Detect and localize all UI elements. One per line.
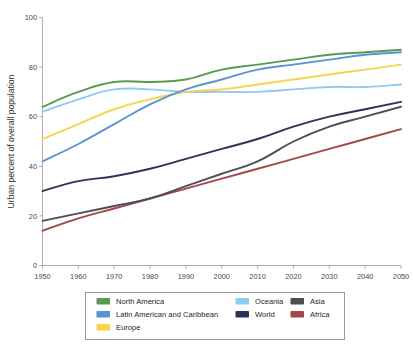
legend-swatch-oceania [236, 298, 250, 305]
series-line-north-america [43, 50, 402, 107]
x-tick-label: 1950 [34, 272, 50, 281]
legend-swatch-north-america [97, 298, 111, 305]
legend-label-latin-american-and-caribbean: Latin American and Caribbean [116, 310, 218, 319]
x-tick-label: 2010 [249, 272, 265, 281]
legend-swatch-asia [291, 298, 305, 305]
y-tick-label: 20 [29, 212, 37, 221]
x-tick-label: 2030 [321, 272, 337, 281]
legend-label-europe: Europe [116, 323, 141, 332]
urban-population-line-chart: 0204060801001950196019701980199020002010… [0, 0, 413, 353]
y-tick-label: 60 [29, 112, 37, 121]
x-tick-label: 1970 [106, 272, 122, 281]
legend-item[interactable]: World [236, 310, 275, 319]
legend-swatch-latin-american-and-caribbean [97, 311, 111, 318]
y-tick-label: 0 [33, 261, 37, 270]
series-line-world [43, 102, 402, 191]
legend-swatch-europe [97, 324, 111, 331]
legend-item[interactable]: Europe [97, 323, 141, 332]
series-line-latin-american-and-caribbean [43, 52, 402, 161]
legend-swatch-africa [291, 311, 305, 318]
legend-label-oceania: Oceania [255, 297, 284, 306]
x-tick-label: 1990 [178, 272, 194, 281]
legend-label-world: World [255, 310, 275, 319]
legend: North AmericaLatin American and Caribbea… [86, 293, 345, 340]
series-line-africa [43, 129, 402, 231]
y-tick-label: 80 [29, 63, 37, 72]
x-tick-label: 1960 [70, 272, 86, 281]
legend-item[interactable]: Africa [291, 310, 331, 319]
legend-label-africa: Africa [310, 310, 330, 319]
legend-swatch-world [236, 311, 250, 318]
x-tick-label: 2020 [285, 272, 301, 281]
series-group [43, 50, 402, 231]
y-axis-title: Urban percent of overall population [6, 74, 16, 208]
legend-item[interactable]: North America [97, 297, 165, 306]
y-tick-label: 100 [25, 13, 37, 22]
x-tick-label: 2050 [393, 272, 409, 281]
series-line-europe [43, 65, 402, 139]
legend-item[interactable]: Oceania [236, 297, 285, 306]
series-line-asia [43, 107, 402, 221]
y-axis-ticks: 020406080100 [25, 13, 43, 270]
legend-label-asia: Asia [310, 297, 326, 306]
x-tick-label: 2000 [214, 272, 230, 281]
x-axis-ticks: 1950196019701980199020002010202020302040… [34, 266, 409, 281]
legend-label-north-america: North America [116, 297, 165, 306]
chart-container: 0204060801001950196019701980199020002010… [0, 0, 413, 353]
y-tick-label: 40 [29, 162, 37, 171]
x-tick-label: 2040 [357, 272, 373, 281]
x-tick-label: 1980 [142, 272, 158, 281]
